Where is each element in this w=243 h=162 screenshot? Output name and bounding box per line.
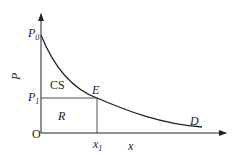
x-axis-label: x [127, 139, 134, 153]
x1-label: x1 [92, 137, 102, 153]
demand-diagram: P0 P1 O x1 x P CS R E D [0, 0, 243, 162]
origin-label: O [32, 127, 41, 141]
p0-label: P0 [27, 26, 39, 42]
y-axis-label: P [9, 72, 23, 81]
equilibrium-label: E [91, 83, 100, 97]
demand-label: D [189, 114, 199, 128]
p1-label: P1 [27, 90, 39, 106]
revenue-label: R [57, 109, 66, 123]
consumer-surplus-label: CS [50, 78, 65, 92]
